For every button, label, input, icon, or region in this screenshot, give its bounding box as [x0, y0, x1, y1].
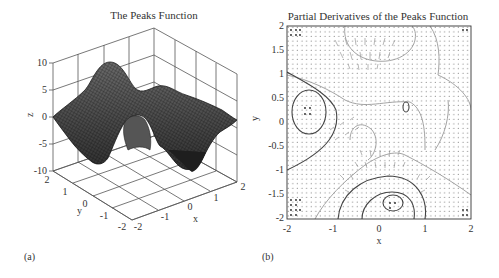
svg-text:-1: -1: [329, 223, 337, 234]
svg-text:-2: -2: [276, 212, 284, 223]
svg-text:0: 0: [83, 198, 88, 209]
svg-text:0: 0: [377, 223, 382, 234]
svg-text:1: 1: [214, 192, 219, 203]
y-tick-labels: 2 1 0 -1 -2: [45, 174, 127, 232]
svg-text:2: 2: [241, 181, 246, 192]
svg-text:-1: -1: [161, 211, 169, 222]
quiver-field: [287, 26, 471, 219]
panel-label-b: (b): [262, 251, 274, 263]
surface-plot: The Peaks Function: [24, 9, 246, 263]
svg-text:1: 1: [63, 186, 68, 197]
svg-text:0: 0: [188, 201, 193, 212]
svg-text:5: 5: [42, 84, 47, 95]
svg-text:-1: -1: [276, 164, 284, 175]
quiver-title: Partial Derivatives of the Peaks Functio…: [288, 10, 469, 22]
x-axis-label: x: [193, 213, 198, 224]
svg-text:1: 1: [279, 68, 284, 79]
svg-text:-2: -2: [134, 221, 142, 232]
svg-text:1.5: 1.5: [272, 44, 285, 55]
figure: The Peaks Function: [0, 0, 499, 278]
x-tick-labels-b: -2 -1 0 1 2: [283, 223, 474, 234]
y-tick-labels-b: 2 1.5 1 0.5 0 -0.5 -1 -1.5 -2: [268, 20, 284, 223]
svg-text:2: 2: [45, 174, 50, 185]
svg-text:-0.5: -0.5: [268, 140, 284, 151]
z-axis-label: z: [24, 112, 35, 117]
svg-text:0.5: 0.5: [272, 92, 285, 103]
quiver-plot: Partial Derivatives of the Peaks Functio…: [249, 10, 474, 263]
svg-text:2: 2: [279, 20, 284, 31]
svg-text:0: 0: [42, 111, 47, 122]
svg-text:10: 10: [37, 57, 47, 68]
svg-text:-1: -1: [100, 210, 108, 221]
z-tick-labels: 10 5 0 -5 -10: [34, 57, 47, 176]
svg-text:-2: -2: [283, 223, 291, 234]
x-axis-label-b: x: [377, 235, 382, 246]
panel-label-a: (a): [24, 251, 35, 263]
svg-text:0: 0: [279, 116, 284, 127]
svg-text:2: 2: [469, 223, 474, 234]
y-axis-label: y: [77, 205, 82, 216]
surface-title: The Peaks Function: [110, 9, 198, 21]
svg-text:-5: -5: [39, 138, 47, 149]
y-axis-label-b: y: [249, 116, 260, 121]
svg-text:-2: -2: [118, 221, 126, 232]
surface-mesh: [53, 62, 237, 172]
svg-text:-1.5: -1.5: [268, 188, 284, 199]
svg-text:1: 1: [423, 223, 428, 234]
x-tick-labels: -2 -1 0 1 2: [134, 181, 246, 232]
